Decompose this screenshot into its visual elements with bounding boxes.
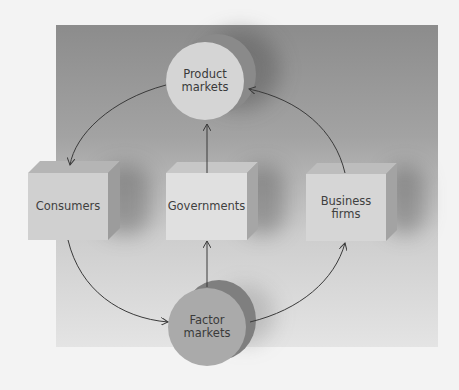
- arrow-business-to-product: [249, 89, 345, 173]
- arrow-consumers-to-factor: [68, 240, 168, 322]
- arrow-factor-to-business: [250, 243, 345, 322]
- flow-arrows: [0, 0, 459, 390]
- arrow-product-to-consumers: [70, 85, 166, 165]
